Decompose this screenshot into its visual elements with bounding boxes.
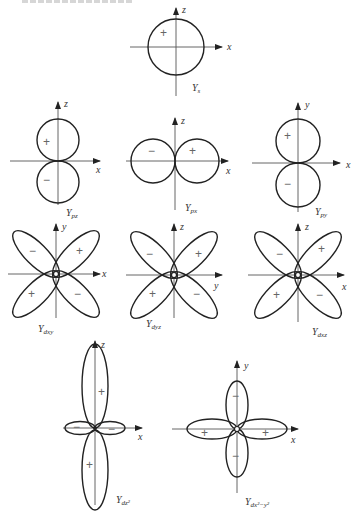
sign-label: − bbox=[29, 244, 36, 258]
sign-label: + bbox=[189, 144, 196, 158]
sign-label: − bbox=[148, 144, 155, 158]
sign-label: + bbox=[195, 247, 202, 261]
sign-label: − bbox=[232, 449, 239, 463]
orbital-label: Ypy bbox=[315, 206, 328, 219]
z-axis-label: z bbox=[304, 221, 309, 232]
x-axis-label: x bbox=[137, 431, 143, 442]
sign-label: + bbox=[43, 135, 50, 149]
orbital-label: Ydz² bbox=[116, 494, 131, 507]
sign-label: − bbox=[316, 288, 323, 302]
nucleus bbox=[54, 272, 59, 277]
y-axis-label: y bbox=[213, 280, 219, 291]
sign-label: + bbox=[318, 242, 325, 256]
sign-label: + bbox=[76, 244, 83, 258]
orbital-py: y x + − Ypy bbox=[252, 99, 351, 219]
orbital-label: Ypx bbox=[185, 202, 198, 215]
orbital-dz2: z x + − − + Ydz² bbox=[63, 339, 143, 510]
sign-label: − bbox=[146, 247, 153, 261]
sign-label: − bbox=[74, 287, 81, 301]
orbital-pz: z x + − Ypz bbox=[10, 98, 101, 220]
sign-label: + bbox=[28, 287, 35, 301]
x-axis-label: x bbox=[95, 164, 101, 175]
x-axis-label: x bbox=[290, 434, 296, 445]
orbital-label: Ydyz bbox=[146, 318, 161, 331]
sign-label: + bbox=[160, 26, 167, 40]
sign-label: + bbox=[86, 458, 93, 472]
sign-label: + bbox=[262, 426, 269, 440]
x-axis-label: x bbox=[345, 159, 351, 170]
orbital-s: z x + Ys bbox=[130, 4, 232, 96]
y-axis-label: y bbox=[61, 221, 67, 232]
sign-label: − bbox=[73, 420, 80, 434]
x-axis-label: x bbox=[226, 41, 232, 52]
orbital-dxy: y x − + + − Ydxy bbox=[6, 221, 107, 336]
y-axis-label: y bbox=[304, 99, 310, 110]
x-axis-label: x bbox=[101, 268, 107, 279]
orbital-label: Ydxz bbox=[312, 326, 327, 339]
z-axis-label: z bbox=[100, 339, 105, 350]
z-axis-label: z bbox=[179, 221, 184, 232]
x-axis-label: x bbox=[225, 165, 231, 176]
sign-label: + bbox=[149, 287, 156, 301]
z-axis-label: z bbox=[181, 4, 186, 15]
z-axis-label: z bbox=[63, 98, 68, 109]
nucleus bbox=[93, 426, 97, 430]
nucleus bbox=[172, 273, 177, 278]
orbital-dyz: z y − + + − Ydyz bbox=[124, 221, 223, 331]
sign-label: + bbox=[98, 385, 105, 399]
orbital-dxz: z x − + + − Ydxz bbox=[248, 221, 348, 339]
orbital-dx2-y2: y x − + + − Ydx²−y² bbox=[172, 360, 298, 509]
sign-label: + bbox=[273, 288, 280, 302]
sign-label: − bbox=[284, 177, 291, 191]
orbital-label: Ydx²−y² bbox=[245, 496, 270, 509]
sign-label: − bbox=[232, 389, 239, 403]
nucleus bbox=[296, 273, 301, 278]
z-axis-label: z bbox=[180, 115, 185, 126]
sign-label: − bbox=[43, 173, 50, 187]
x-axis-label: x bbox=[341, 281, 347, 292]
orbital-diagram: z x + Ys z x + − Ypz z x − + Ypx y x + − bbox=[0, 0, 357, 515]
sign-label: − bbox=[193, 287, 200, 301]
orbital-label: Ydxy bbox=[38, 323, 54, 336]
sign-label: + bbox=[284, 129, 291, 143]
sign-label: − bbox=[276, 247, 283, 261]
sign-label: + bbox=[201, 426, 208, 440]
y-axis-label: y bbox=[243, 360, 249, 371]
sign-label: − bbox=[108, 422, 115, 436]
nucleus bbox=[235, 427, 240, 432]
orbital-label: Ys bbox=[192, 82, 201, 95]
orbital-px: z x − + Ypx bbox=[126, 115, 231, 215]
orbital-label: Ypz bbox=[66, 207, 78, 220]
